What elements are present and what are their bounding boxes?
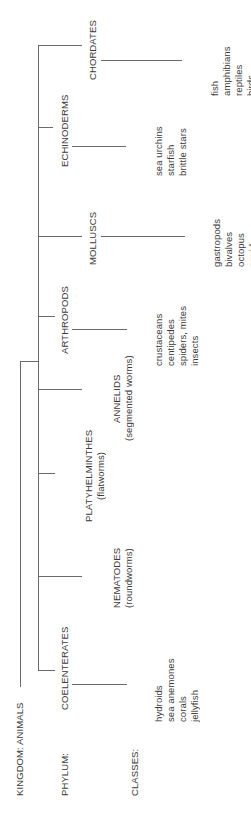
classes-molluscs: gastropodsbivalvesoctopussquid bbox=[187, 213, 251, 267]
class-item: sea anemones bbox=[165, 644, 177, 722]
branch-platyhelminthes bbox=[38, 473, 55, 474]
class-line-coelenterates bbox=[72, 684, 127, 685]
branch-coelenterates bbox=[38, 670, 55, 671]
class-item: birds bbox=[245, 32, 251, 96]
classes-echinoderms: sea urchinsstarfishbrittle stars bbox=[129, 118, 201, 176]
class-item: spiders, mites bbox=[177, 298, 189, 366]
branch-molluscs bbox=[38, 236, 82, 237]
phylum-arthropods: ARTHROPODS bbox=[59, 280, 71, 354]
class-item: jellyfish bbox=[189, 644, 201, 722]
class-item: gastropods bbox=[211, 213, 223, 267]
class-line-echinoderms bbox=[72, 146, 126, 147]
phylum-row-label: PHYLUM: bbox=[59, 740, 71, 796]
classes-coelenterates: hydroidssea anemonescoralsjellyfish bbox=[129, 644, 213, 722]
phylum-common-name: (roundworms) bbox=[123, 544, 135, 612]
class-item: hydroids bbox=[153, 644, 165, 722]
class-item: brittle stars bbox=[177, 118, 189, 176]
class-item: squid bbox=[247, 213, 251, 267]
class-item: centipedes bbox=[165, 298, 177, 366]
class-item: reptiles bbox=[233, 32, 245, 96]
phylum-spine bbox=[38, 45, 39, 671]
phylum-annelids: ANNELIDS(segmented worms) bbox=[87, 357, 147, 441]
branch-annelids bbox=[38, 389, 82, 390]
class-line-chordates bbox=[101, 60, 182, 61]
class-item: bivalves bbox=[223, 213, 235, 267]
class-line-molluscs bbox=[101, 236, 185, 237]
phylum-name: NEMATODES bbox=[111, 544, 123, 612]
kingdom-connector bbox=[20, 361, 39, 362]
branch-echinoderms bbox=[38, 127, 53, 128]
kingdom-stem bbox=[20, 361, 21, 687]
class-item: insects bbox=[189, 298, 201, 366]
class-item: amphibians bbox=[221, 32, 233, 96]
phylum-chordates: CHORDATES bbox=[87, 12, 99, 80]
phylum-common-name: (segmented worms) bbox=[123, 357, 135, 441]
branch-arthropods bbox=[38, 316, 55, 317]
kingdom-label: KINGDOM: ANIMALS bbox=[14, 690, 26, 796]
branch-chordates bbox=[38, 45, 82, 46]
classes-chordates: fishamphibiansreptilesbirdsmammals bbox=[185, 32, 251, 96]
class-item: crustaceans bbox=[153, 298, 165, 366]
phylum-nematodes: NEMATODES(roundworms) bbox=[87, 544, 147, 612]
class-line-arthropods bbox=[72, 329, 127, 330]
class-item: octopus bbox=[235, 213, 247, 267]
phylum-molluscs: MOLLUSCS bbox=[87, 207, 99, 265]
class-item: sea urchins bbox=[153, 118, 165, 176]
phylum-echinoderms: ECHINODERMS bbox=[59, 87, 71, 167]
classes-row-label: CLASSES: bbox=[129, 733, 141, 796]
classes-arthropods: crustaceanscentipedesspiders, mitesinsec… bbox=[129, 298, 213, 366]
class-item: corals bbox=[177, 644, 189, 722]
phylum-name: ANNELIDS bbox=[111, 357, 123, 441]
phylum-coelenterates: COELENTERATES bbox=[59, 624, 71, 710]
branch-nematodes bbox=[38, 576, 82, 577]
class-item: starfish bbox=[165, 118, 177, 176]
class-item: fish bbox=[209, 32, 221, 96]
